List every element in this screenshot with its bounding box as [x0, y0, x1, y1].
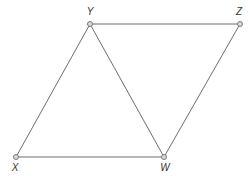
segment-yw — [90, 24, 164, 157]
point-z — [238, 22, 243, 27]
label-z: Z — [235, 6, 243, 17]
label-y: Y — [87, 6, 95, 17]
segment-xy — [16, 24, 90, 157]
label-w: W — [160, 162, 171, 173]
segment-wz — [164, 24, 240, 157]
point-w — [162, 155, 167, 160]
point-y — [88, 22, 93, 27]
points — [14, 22, 243, 160]
geometry-diagram: Y Z X W — [0, 0, 251, 183]
label-x: X — [11, 162, 19, 173]
point-x — [14, 155, 19, 160]
segments — [16, 24, 240, 157]
